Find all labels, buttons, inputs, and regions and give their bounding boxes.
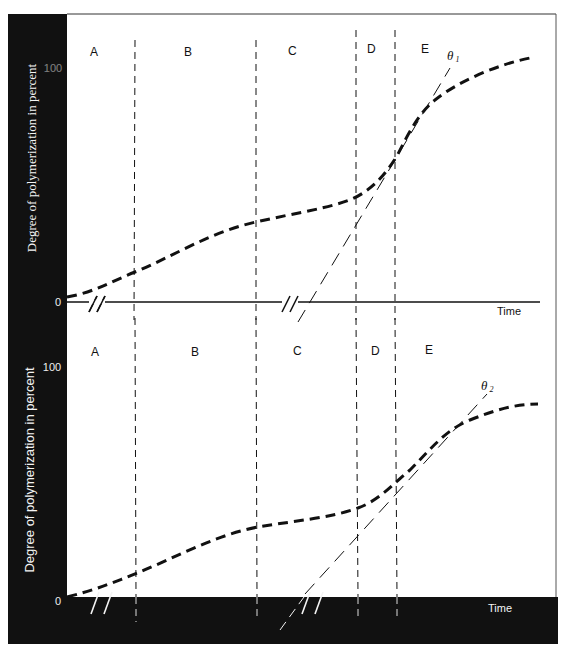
lower-region-B: B (191, 345, 199, 359)
upper-ytick-0: 0 (55, 296, 61, 308)
upper-ytick-100: 100 (44, 62, 62, 74)
upper-region-E: E (421, 42, 429, 56)
lower-y-axis-label: Degree of polymerization in percent (22, 367, 37, 573)
lower-region-C: C (293, 344, 302, 358)
lower-x-axis-label: Time (488, 602, 512, 614)
lower-region-E: E (425, 343, 433, 357)
lower-ytick-0: 0 (55, 595, 61, 607)
upper-region-D: D (367, 42, 376, 56)
upper-x-axis-label: Time (497, 305, 521, 317)
upper-region-C: C (288, 44, 297, 58)
bottom-dark-band (8, 597, 558, 644)
polymerization-figure: Degree of polymerization in percent 100 … (0, 0, 564, 650)
lower-region-D: D (371, 344, 380, 358)
upper-y-axis-label: Degree of polymerization in percent (24, 63, 39, 252)
lower-region-A: A (91, 345, 99, 359)
upper-region-B: B (184, 45, 192, 59)
upper-region-A: A (90, 45, 98, 59)
lower-ytick-100: 100 (43, 361, 61, 373)
